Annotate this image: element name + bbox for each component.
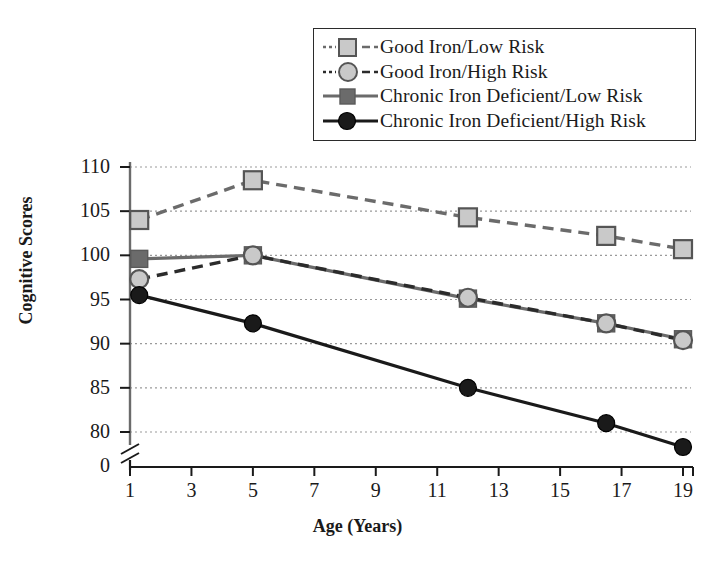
y-tick-label: 85 bbox=[58, 377, 110, 397]
x-tick-label: 5 bbox=[233, 480, 273, 500]
y-tick-label: 80 bbox=[58, 421, 110, 441]
y-tick-label: 100 bbox=[58, 244, 110, 264]
y-tick-label: 95 bbox=[58, 289, 110, 309]
data-point-square bbox=[674, 240, 692, 258]
data-point-circle bbox=[598, 415, 615, 432]
plot-area bbox=[0, 0, 715, 561]
data-point-circle bbox=[597, 314, 615, 332]
x-tick-label: 19 bbox=[663, 480, 703, 500]
x-tick-label: 13 bbox=[479, 480, 519, 500]
x-tick-label: 9 bbox=[356, 480, 396, 500]
x-tick-label: 15 bbox=[540, 480, 580, 500]
chart-container: Good Iron/Low Risk Good Iron/High Risk C… bbox=[0, 0, 715, 561]
x-tick-label: 11 bbox=[417, 480, 457, 500]
data-point-circle bbox=[459, 289, 477, 307]
axis-break-mark bbox=[121, 444, 139, 454]
y-tick-label: 110 bbox=[58, 156, 110, 176]
y-tick-label: 90 bbox=[58, 333, 110, 353]
data-point-square bbox=[597, 227, 615, 245]
data-point-circle bbox=[131, 287, 148, 304]
y-tick-label: 105 bbox=[58, 200, 110, 220]
data-point-circle bbox=[130, 270, 148, 288]
data-point-square bbox=[130, 211, 148, 229]
y-axis-origin-label: 0 bbox=[58, 455, 110, 475]
data-point-square bbox=[459, 208, 477, 226]
x-tick-label: 1 bbox=[110, 480, 150, 500]
data-point-circle bbox=[675, 439, 692, 456]
x-tick-label: 7 bbox=[294, 480, 334, 500]
data-point-square bbox=[244, 171, 262, 189]
data-point-circle bbox=[244, 246, 262, 264]
data-point-circle bbox=[674, 331, 692, 349]
data-point-square bbox=[131, 250, 148, 267]
x-tick-label: 3 bbox=[171, 480, 211, 500]
x-tick-label: 17 bbox=[602, 480, 642, 500]
data-point-circle bbox=[244, 315, 261, 332]
data-point-circle bbox=[459, 379, 476, 396]
